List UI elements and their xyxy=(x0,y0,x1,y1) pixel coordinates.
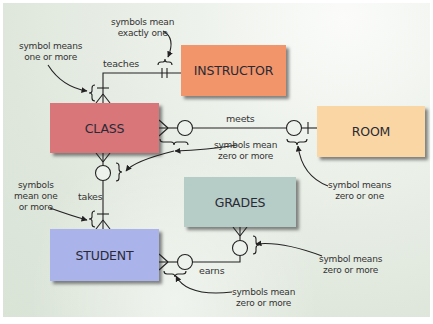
relationship-teaches-label: teaches xyxy=(103,58,139,69)
relationship-takes-label: takes xyxy=(78,191,103,202)
entity-instructor-label: INSTRUCTOR xyxy=(194,63,273,78)
entity-instructor: INSTRUCTOR xyxy=(181,45,286,96)
annotation-zero-or-more-earns: symbols mean zero or more xyxy=(232,287,295,309)
annotation-one-or-more-top: symbol means one or more xyxy=(19,41,82,63)
entity-student-label: STUDENT xyxy=(76,248,134,263)
relationship-earns-label: earns xyxy=(199,265,224,276)
entity-room: ROOM xyxy=(317,106,425,157)
annotation-zero-or-more-class-room: symbols mean zero or more xyxy=(214,140,277,162)
entity-class: CLASS xyxy=(50,103,159,153)
annotation-zero-or-one-room: symbol means zero or one xyxy=(328,180,391,202)
annotation-exactly-one: symbols mean exactly one xyxy=(111,17,174,39)
annotation-one-or-more-takes: symbols mean one or more xyxy=(14,180,58,213)
annotation-zero-or-more-grades: symbol means zero or more xyxy=(319,254,382,276)
entity-class-label: CLASS xyxy=(85,121,124,136)
entity-grades-label: GRADES xyxy=(215,195,266,210)
relationship-meets-label: meets xyxy=(226,113,255,124)
entity-student: STUDENT xyxy=(50,229,159,281)
entity-room-label: ROOM xyxy=(352,124,390,139)
entity-grades: GRADES xyxy=(184,177,296,227)
